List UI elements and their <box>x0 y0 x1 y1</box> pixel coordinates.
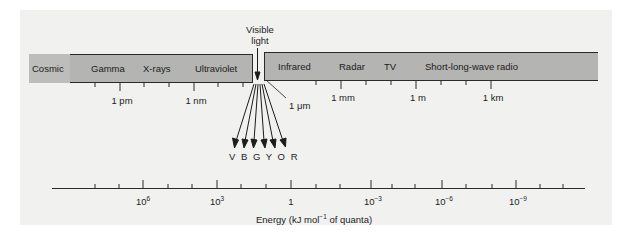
visible-light-arrow <box>255 48 260 80</box>
energy-label-1e-3: 10−3 <box>364 196 382 207</box>
band-label-infrared: Infrared <box>278 62 311 72</box>
wavelength-label-um: 1 μm <box>289 101 310 111</box>
band-label-tv: TV <box>384 62 396 72</box>
wavelength-label-mm: 1 mm <box>331 93 355 103</box>
band-label-gamma: Gamma <box>91 64 125 74</box>
visible-light-label: Visible light <box>240 24 280 46</box>
visible-color-arrows <box>233 84 287 148</box>
wavelength-label-km: 1 km <box>483 93 504 103</box>
energy-axis-title: Energy (kJ mol−1 of quanta) <box>256 213 372 225</box>
energy-label-1e3: 103 <box>210 196 224 207</box>
band-label-radar: Radar <box>339 62 365 72</box>
wavelength-label-m: 1 m <box>410 93 426 103</box>
band-label-cosmic: Cosmic <box>32 64 64 74</box>
micrometer-leader <box>266 80 286 98</box>
energy-label-1e6: 106 <box>136 196 150 207</box>
wavelength-label-pm: 1 pm <box>111 96 132 106</box>
band-label-xrays: X-rays <box>143 64 170 74</box>
energy-axis-ticks <box>95 180 563 188</box>
wavelength-label-nm: 1 nm <box>185 96 206 106</box>
band-label-radio: Short-long-wave radio <box>425 62 518 72</box>
visible-label-line1: Visible <box>240 24 280 35</box>
energy-label-1e-6: 10−6 <box>435 196 453 207</box>
visible-colors-label: V B G Y O R <box>229 151 299 162</box>
energy-label-1e-9: 10−9 <box>509 196 527 207</box>
energy-label-1: 1 <box>288 196 293 207</box>
visible-label-line2: light <box>240 35 280 46</box>
band-label-ultraviolet: Ultraviolet <box>195 64 237 74</box>
